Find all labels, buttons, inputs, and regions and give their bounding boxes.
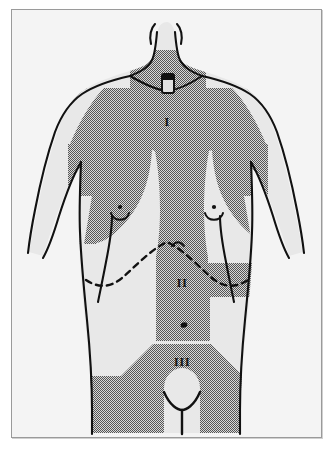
torso-diagram: I II III [12, 10, 321, 437]
sternal-notch-marker [162, 74, 174, 93]
zone-2-label: II [176, 275, 187, 290]
zone-3-label: III [174, 354, 191, 369]
figure-root: I II III [0, 0, 333, 450]
figure-frame: I II III [11, 9, 322, 438]
zone-1-label: I [164, 114, 170, 129]
